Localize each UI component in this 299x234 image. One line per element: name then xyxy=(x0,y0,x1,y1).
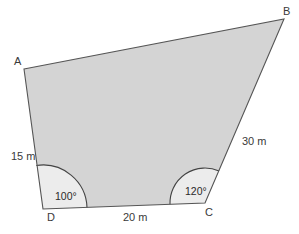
vertex-label-a: A xyxy=(14,55,22,67)
vertex-label-c: C xyxy=(205,206,213,218)
vertex-label-d: D xyxy=(47,211,55,223)
side-label-dc: 20 m xyxy=(123,211,147,223)
vertex-label-b: B xyxy=(283,5,290,17)
side-label-ad: 15 m xyxy=(11,150,35,162)
angle-label-c: 120° xyxy=(185,185,207,197)
quadrilateral-diagram: A B C D 15 m 30 m 20 m 100° 120° xyxy=(0,0,299,234)
angle-label-d: 100° xyxy=(55,190,77,202)
side-label-bc: 30 m xyxy=(242,135,266,147)
